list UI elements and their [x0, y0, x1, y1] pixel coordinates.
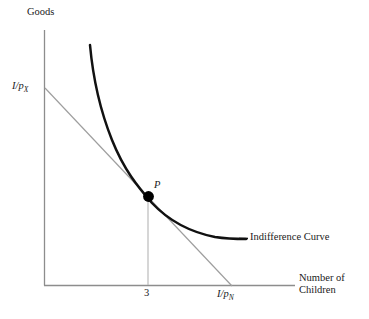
x-axis-label-line2: Children: [299, 284, 336, 295]
economics-indifference-curve-figure: Goods Number ofChildren I/pX I/pN 3 P In…: [0, 0, 369, 319]
y-intercept-label-main: I/p: [12, 80, 24, 91]
indifference-curve-label: Indifference Curve: [250, 231, 329, 243]
optimum-point-marker: [143, 191, 154, 202]
x-intercept-label-subscript: N: [229, 293, 234, 302]
y-intercept-label: I/pX: [12, 80, 28, 95]
y-axis-label: Goods: [27, 6, 54, 18]
y-intercept-label-subscript: X: [24, 85, 29, 94]
optimum-point-label: P: [154, 179, 160, 191]
indifference-curve: [90, 45, 246, 239]
x-axis-label: Number ofChildren: [299, 272, 345, 296]
x-intercept-label-main: I/p: [217, 288, 229, 299]
x-axis-label-line1: Number of: [299, 272, 345, 283]
x-intercept-label: I/pN: [217, 288, 234, 303]
x-tick-label-3: 3: [144, 287, 149, 299]
